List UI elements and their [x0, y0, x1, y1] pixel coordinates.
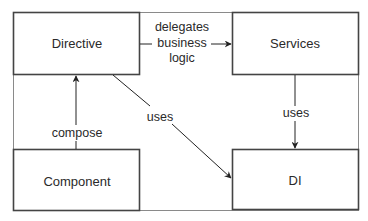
node-services-label: Services	[270, 36, 320, 51]
edge-services-di: uses	[283, 75, 309, 148]
edge-component-directive: compose	[52, 76, 103, 149]
node-directive-label: Directive	[52, 36, 103, 51]
edge-label-compose: compose	[52, 126, 103, 140]
node-services: Services	[233, 13, 359, 75]
edge-label-delegates: delegates	[155, 20, 209, 34]
edge-label-business: business	[157, 36, 206, 50]
node-di: DI	[233, 150, 359, 210]
node-di-label: DI	[289, 173, 302, 188]
node-directive: Directive	[14, 13, 140, 75]
node-component-label: Component	[43, 174, 111, 189]
edge-label-logic: logic	[169, 51, 195, 65]
edge-directive-services: delegates business logic	[140, 20, 231, 65]
edge-label-uses-directive-di: uses	[147, 110, 173, 124]
edge-label-uses-services-di: uses	[283, 106, 309, 120]
architecture-diagram: Directive Services Component DI delegate…	[0, 0, 368, 221]
node-component: Component	[14, 150, 140, 211]
